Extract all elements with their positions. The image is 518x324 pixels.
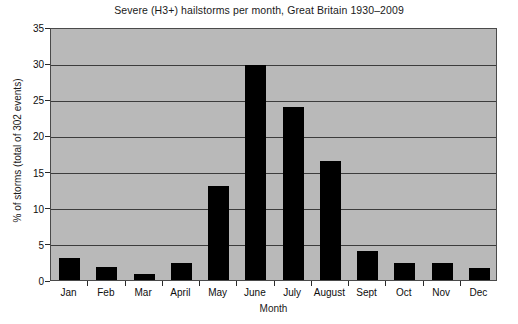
y-axis-tick-label: 30 — [10, 59, 44, 70]
x-axis-tick-mark — [385, 281, 386, 286]
bar-may[interactable] — [208, 186, 229, 280]
x-axis-tick-mark — [348, 281, 349, 286]
x-axis-tick-mark — [87, 281, 88, 286]
chart-figure: Severe (H3+) hailstorms per month, Great… — [0, 0, 518, 324]
y-axis-tick-mark — [45, 244, 50, 245]
x-axis-title: Month — [50, 303, 497, 314]
y-axis-tick-label: 35 — [10, 23, 44, 34]
x-axis-tick-mark — [236, 281, 237, 286]
bar-nov[interactable] — [432, 263, 453, 280]
y-axis-tick-mark — [45, 100, 50, 101]
bar-feb[interactable] — [96, 267, 117, 280]
x-axis-tick-mark — [125, 281, 126, 286]
bar-sept[interactable] — [357, 251, 378, 280]
y-axis-tick-mark — [45, 281, 50, 282]
y-axis-tick-mark — [45, 208, 50, 209]
y-axis-tick-label: 15 — [10, 167, 44, 178]
bar-jan[interactable] — [59, 258, 80, 280]
y-axis-title: % of storms (total of 302 events) — [12, 51, 23, 251]
chart-title: Severe (H3+) hailstorms per month, Great… — [0, 4, 518, 16]
bars-group — [51, 29, 496, 280]
y-axis-tick-label: 25 — [10, 95, 44, 106]
bar-june[interactable] — [245, 65, 266, 280]
y-axis-tick-mark — [45, 64, 50, 65]
bar-mar[interactable] — [134, 274, 155, 280]
x-axis-tick-mark — [199, 281, 200, 286]
y-axis-tick-label: 20 — [10, 131, 44, 142]
x-axis-tick-mark — [423, 281, 424, 286]
bar-july[interactable] — [283, 107, 304, 280]
plot-area — [50, 28, 497, 281]
x-axis-tick-mark — [162, 281, 163, 286]
x-axis-tick-label-dec: Dec — [454, 287, 502, 298]
x-axis-tick-mark — [274, 281, 275, 286]
bar-april[interactable] — [171, 263, 192, 280]
bar-dec[interactable] — [469, 268, 490, 280]
y-axis-tick-label: 0 — [10, 276, 44, 287]
x-axis-tick-mark — [460, 281, 461, 286]
y-axis-tick-label: 10 — [10, 203, 44, 214]
y-axis-tick-mark — [45, 136, 50, 137]
bar-oct[interactable] — [394, 263, 415, 280]
bar-august[interactable] — [320, 161, 341, 280]
y-axis-tick-mark — [45, 172, 50, 173]
y-axis-tick-mark — [45, 28, 50, 29]
y-axis-tick-label: 5 — [10, 239, 44, 250]
x-axis-tick-mark — [311, 281, 312, 286]
